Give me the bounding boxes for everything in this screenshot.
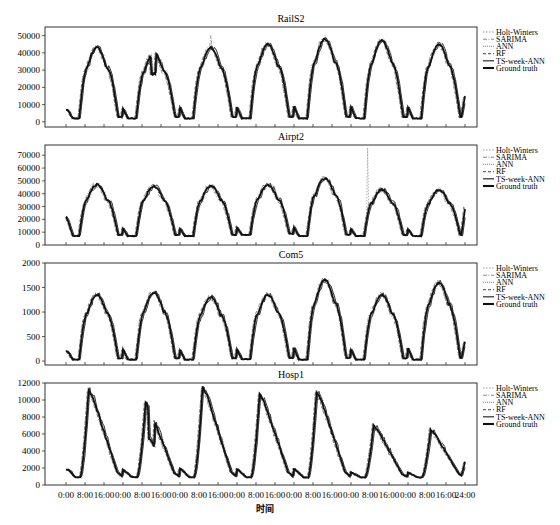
forecast-comparison-figure: RailS201000020000300004000050000Holt-Win…: [0, 0, 560, 525]
panel-airpt2: Airpt20100002000030000400005000060000700…: [18, 131, 546, 250]
y-tick-label: 50000: [18, 31, 41, 41]
y-tick-label: 0: [36, 240, 41, 250]
legend: Holt-WintersSARIMAANNRFTS-week-ANNGround…: [483, 28, 545, 73]
panel-title: Com5: [279, 249, 303, 260]
y-tick-label: 12000: [18, 378, 41, 388]
y-tick-label: 500: [27, 332, 41, 342]
y-tick-label: 60000: [18, 163, 41, 173]
x-tick-label: 0:00: [115, 490, 132, 500]
series-ground-truth: [66, 179, 465, 237]
y-tick-label: 1500: [22, 283, 41, 293]
legend-label: Ground truth: [496, 64, 538, 73]
x-tick-label: 8:00: [419, 490, 436, 500]
y-tick-label: 30000: [18, 65, 41, 75]
panel-com5: Com50500100015002000Holt-WintersSARIMAAN…: [22, 249, 545, 366]
x-tick-label: 24:00: [455, 490, 476, 500]
x-tick-label: 8:00: [191, 490, 208, 500]
panel-hosp1: Hosp1020004000600080001000012000Holt-Win…: [18, 369, 546, 490]
y-tick-label: 0: [36, 356, 41, 366]
y-tick-label: 0: [36, 480, 41, 490]
legend: Holt-WintersSARIMAANNRFTS-week-ANNGround…: [483, 146, 545, 191]
legend-label: Ground truth: [496, 182, 538, 191]
legend-label: Ground truth: [496, 300, 538, 309]
x-tick-label: 0:00: [229, 490, 246, 500]
series-ann: [66, 39, 465, 120]
series-holt-winters: [66, 279, 465, 361]
y-tick-label: 8000: [22, 412, 41, 422]
x-axis-title: 时间: [256, 503, 274, 514]
x-tick-label: 0:00: [343, 490, 360, 500]
y-tick-label: 10000: [18, 100, 41, 110]
x-tick-label: 8:00: [305, 490, 322, 500]
y-tick-label: 20000: [18, 82, 41, 92]
x-tick-label: 8:00: [248, 490, 265, 500]
x-tick-label: 0:00: [400, 490, 417, 500]
y-tick-label: 20000: [18, 214, 41, 224]
y-tick-label: 6000: [22, 429, 41, 439]
series-ground-truth: [66, 39, 465, 119]
x-tick-label: 8:00: [77, 490, 94, 500]
y-tick-label: 10000: [18, 227, 41, 237]
y-tick-label: 40000: [18, 48, 41, 58]
x-tick-label: 8:00: [362, 490, 379, 500]
series-sarima: [66, 278, 465, 360]
legend: Holt-WintersSARIMAANNRFTS-week-ANNGround…: [483, 384, 545, 429]
y-tick-label: 4000: [22, 446, 41, 456]
x-tick-label: 16:00: [151, 490, 172, 500]
series-ts-week-ann: [66, 387, 465, 478]
x-tick-label: 16:00: [322, 490, 343, 500]
legend-label: Ground truth: [496, 420, 538, 429]
y-tick-label: 1000: [22, 307, 41, 317]
series-ground-truth: [66, 279, 465, 360]
y-tick-label: 10000: [18, 395, 41, 405]
x-tick-label: 16:00: [94, 490, 115, 500]
y-tick-label: 50000: [18, 176, 41, 186]
y-tick-label: 2000: [22, 463, 41, 473]
series-ts-week-ann: [66, 38, 465, 120]
legend: Holt-WintersSARIMAANNRFTS-week-ANNGround…: [483, 264, 545, 309]
series-holt-winters: [66, 148, 465, 237]
x-tick-label: 0:00: [172, 490, 189, 500]
series-ts-week-ann: [66, 280, 465, 360]
y-tick-label: 0: [36, 117, 41, 127]
x-tick-label: 0:00: [286, 490, 303, 500]
panel-title: Hosp1: [278, 369, 304, 380]
panel-title: Airpt2: [278, 131, 304, 142]
series-rf: [66, 278, 465, 360]
series-ann: [66, 279, 465, 360]
panel-rails2: RailS201000020000300004000050000Holt-Win…: [18, 13, 546, 127]
y-tick-label: 30000: [18, 202, 41, 212]
panel-title: RailS2: [277, 13, 304, 24]
x-tick-label: 16:00: [208, 490, 229, 500]
x-tick-label: 16:00: [436, 490, 457, 500]
x-tick-label: 16:00: [265, 490, 286, 500]
series-ann: [66, 386, 465, 478]
x-tick-label: 8:00: [134, 490, 151, 500]
y-tick-label: 2000: [22, 258, 41, 268]
y-tick-label: 40000: [18, 189, 41, 199]
y-tick-label: 70000: [18, 150, 41, 160]
x-tick-label: 16:00: [379, 490, 400, 500]
x-tick-label: 0:00: [58, 490, 75, 500]
